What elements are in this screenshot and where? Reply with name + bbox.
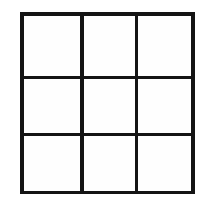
grid-cell[interactable] <box>138 136 191 190</box>
figure-canvas <box>0 0 212 202</box>
grid-cell[interactable] <box>84 136 135 190</box>
grid-cell[interactable] <box>84 79 135 133</box>
grid-cell[interactable] <box>138 16 191 76</box>
grid-cell[interactable] <box>24 136 81 190</box>
grid-cell[interactable] <box>138 79 191 133</box>
three-by-three-grid <box>20 12 195 194</box>
grid-cell[interactable] <box>84 16 135 76</box>
grid-cell[interactable] <box>24 79 81 133</box>
grid-cell[interactable] <box>24 16 81 76</box>
